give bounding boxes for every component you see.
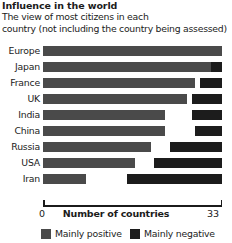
bar-negative-japan	[211, 62, 222, 73]
bar-positive-china	[43, 126, 165, 137]
bar-positive-france	[43, 78, 195, 89]
chart-row: Iran	[0, 172, 232, 188]
row-label-russia: Russia	[0, 141, 40, 152]
bar-negative-uk	[192, 94, 222, 105]
row-label-europe: Europe	[0, 45, 40, 56]
axis-line	[43, 205, 222, 207]
bar-positive-uk	[43, 94, 187, 105]
bar-negative-russia	[170, 142, 222, 153]
axis-labels: 0 Number of countries 33	[0, 208, 232, 222]
bar-positive-iran	[43, 174, 86, 185]
bar-positive-russia	[43, 142, 151, 153]
axis-max-label: 33	[207, 208, 219, 219]
chart-row: Russia	[0, 140, 232, 156]
legend-label-positive: Mainly positive	[55, 228, 122, 239]
bar-negative-usa	[154, 158, 222, 169]
chart-row: Japan	[0, 60, 232, 76]
legend-label-negative: Mainly negative	[144, 228, 215, 239]
chart-subtitle-line-2: country (not including the country being…	[2, 23, 232, 35]
chart-legend: Mainly positive Mainly negative	[0, 228, 232, 242]
bar-positive-japan	[43, 62, 211, 73]
row-label-usa: USA	[0, 157, 40, 168]
chart-row: UK	[0, 92, 232, 108]
axis-title: Number of countries	[0, 208, 232, 219]
bar-negative-iran	[127, 174, 222, 185]
bar-negative-india	[192, 110, 222, 121]
row-label-japan: Japan	[0, 61, 40, 72]
bar-negative-china	[195, 126, 222, 137]
chart-row: India	[0, 108, 232, 124]
legend-item-mainly-positive: Mainly positive	[41, 228, 122, 239]
row-label-iran: Iran	[0, 173, 40, 184]
chart-row: France	[0, 76, 232, 92]
row-label-france: France	[0, 77, 40, 88]
axis-tick-max	[221, 200, 223, 206]
axis-tick-min	[43, 200, 45, 206]
chart-row: Europe	[0, 44, 232, 60]
legend-swatch-negative	[130, 229, 140, 239]
bar-positive-india	[43, 110, 165, 121]
bar-positive-usa	[43, 158, 135, 169]
chart-subtitle-line-1: The view of most citizens in each	[2, 11, 232, 23]
row-label-india: India	[0, 109, 40, 120]
chart-subtitle: The view of most citizens in each countr…	[2, 11, 232, 35]
bar-negative-france	[200, 78, 222, 89]
bar-positive-europe	[43, 46, 222, 57]
row-label-uk: UK	[0, 93, 40, 104]
row-label-china: China	[0, 125, 40, 136]
plot-area: EuropeJapanFranceUKIndiaChinaRussiaUSAIr…	[0, 42, 232, 200]
legend-swatch-positive	[41, 229, 51, 239]
chart-row: USA	[0, 156, 232, 172]
legend-item-mainly-negative: Mainly negative	[130, 228, 215, 239]
chart-row: China	[0, 124, 232, 140]
influence-bar-chart: Influence in the world The view of most …	[0, 0, 232, 243]
